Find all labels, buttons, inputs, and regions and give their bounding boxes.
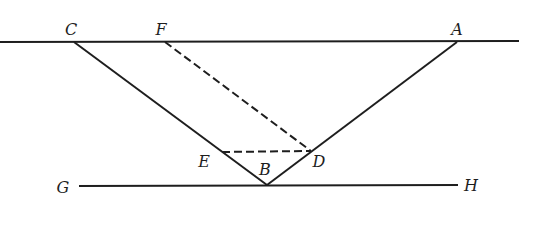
segment-gh xyxy=(79,185,458,186)
point-label-e: E xyxy=(198,154,210,170)
point-label-g: G xyxy=(57,180,70,196)
point-label-h: H xyxy=(464,178,478,194)
segment-ed-dashed xyxy=(222,151,311,152)
segment-fd-dashed xyxy=(165,42,311,151)
point-label-d: D xyxy=(313,154,326,170)
geometry-diagram: C F A E B D G H xyxy=(0,0,539,228)
segment-ab xyxy=(267,42,457,185)
point-label-b: B xyxy=(259,162,271,178)
point-label-c: C xyxy=(65,22,77,38)
segment-cb xyxy=(74,42,267,185)
top-line xyxy=(0,41,519,42)
point-label-f: F xyxy=(155,22,166,38)
point-label-a: A xyxy=(451,22,463,38)
